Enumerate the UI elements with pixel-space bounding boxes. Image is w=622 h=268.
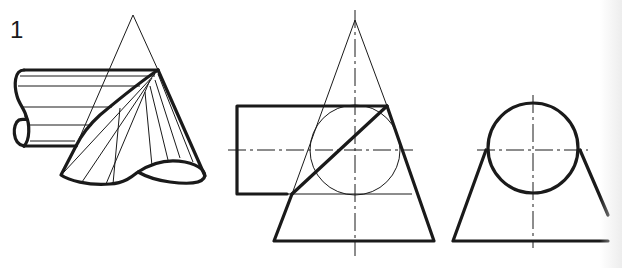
front-view	[228, 10, 434, 256]
isometric-view	[14, 15, 205, 184]
technical-drawing: 1	[0, 0, 622, 268]
side-view	[453, 95, 608, 248]
scan-edge-shadow	[600, 0, 622, 268]
drawing-canvas	[0, 0, 622, 268]
